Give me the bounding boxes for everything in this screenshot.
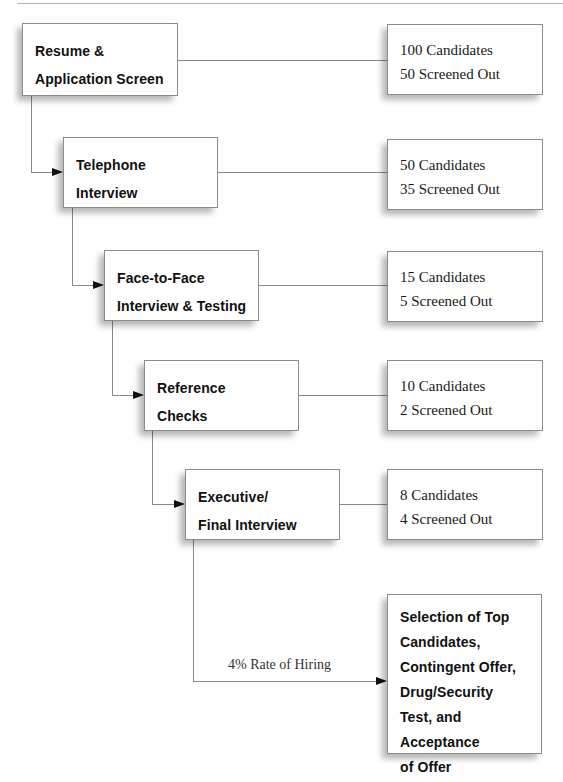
connector-stage4-across [152, 504, 174, 505]
stage-label-line: Telephone [76, 151, 217, 179]
stage-label-line: Interview [76, 179, 217, 207]
final-label-line: Candidates, [400, 630, 541, 655]
arrow-to-stage4-icon [133, 391, 144, 399]
candidates-count: 10 Candidates [400, 374, 542, 398]
stage-label-line: Resume & [35, 37, 177, 65]
final-label-line: Test, and Acceptance [400, 705, 541, 755]
stage-box-resume-screen: Resume & Application Screen [22, 23, 178, 96]
connector-stage5-results [340, 504, 387, 505]
connector-stage3-results [259, 285, 387, 286]
candidates-count: 8 Candidates [400, 483, 542, 507]
screened-out-count: 4 Screened Out [400, 507, 542, 531]
stage-box-executive-interview: Executive/ Final Interview [185, 469, 340, 540]
candidates-count: 100 Candidates [400, 38, 542, 62]
final-label-line: Contingent Offer, [400, 655, 541, 680]
stage-label-line: Application Screen [35, 65, 177, 93]
result-box-stage3: 15 Candidates 5 Screened Out [387, 251, 543, 322]
arrow-to-stage3-icon [93, 281, 104, 289]
final-label-line: Selection of Top [400, 605, 541, 630]
top-rule [17, 3, 563, 4]
hiring-rate-label: 4% Rate of Hiring [228, 657, 331, 673]
final-label-line: of Offer [400, 755, 541, 780]
connector-stage1-down [31, 96, 32, 173]
final-label-line: Drug/Security [400, 680, 541, 705]
screened-out-count: 2 Screened Out [400, 398, 542, 422]
connector-stage5-across [193, 681, 376, 682]
connector-stage1-results [178, 60, 387, 61]
stage-label-line: Face-to-Face [117, 264, 258, 292]
arrow-to-final-icon [376, 677, 387, 685]
stage-label-line: Reference [157, 374, 298, 402]
candidates-count: 15 Candidates [400, 265, 542, 289]
screened-out-count: 5 Screened Out [400, 289, 542, 313]
result-box-stage4: 10 Candidates 2 Screened Out [387, 360, 543, 431]
stage-label-line: Checks [157, 402, 298, 430]
result-box-stage1: 100 Candidates 50 Screened Out [387, 24, 543, 95]
arrow-to-stage5-icon [174, 500, 185, 508]
screened-out-count: 35 Screened Out [400, 177, 542, 201]
stage-label-line: Interview & Testing [117, 292, 258, 320]
connector-stage2-results [218, 172, 387, 173]
result-box-stage5: 8 Candidates 4 Screened Out [387, 469, 543, 540]
connector-stage3-down [112, 321, 113, 396]
stage-box-reference-checks: Reference Checks [144, 360, 299, 431]
connector-stage2-across [72, 285, 94, 286]
connector-stage5-down [193, 540, 194, 682]
connector-stage2-down [72, 208, 73, 286]
stage-box-face-to-face: Face-to-Face Interview & Testing [104, 250, 259, 321]
connector-stage3-across [112, 395, 134, 396]
arrow-to-stage2-icon [52, 168, 63, 176]
screened-out-count: 50 Screened Out [400, 62, 542, 86]
stage-box-telephone-interview: Telephone Interview [63, 137, 218, 208]
connector-stage4-down [152, 431, 153, 505]
candidates-count: 50 Candidates [400, 153, 542, 177]
connector-stage4-results [299, 395, 387, 396]
stage-label-line: Executive/ [198, 483, 339, 511]
stage-label-line: Final Interview [198, 511, 339, 539]
final-selection-box: Selection of Top Candidates, Contingent … [387, 594, 542, 754]
result-box-stage2: 50 Candidates 35 Screened Out [387, 139, 543, 210]
connector-stage1-across [31, 172, 53, 173]
